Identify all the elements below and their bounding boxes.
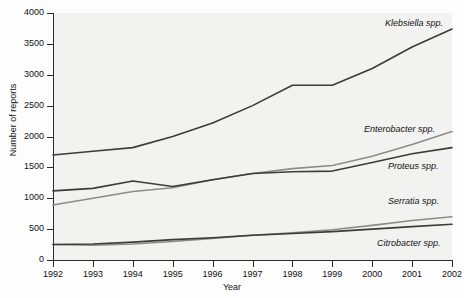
chart-figure: 05001000150020002500300035004000 1992199… — [0, 0, 464, 298]
x-tick-label: 1993 — [75, 269, 111, 279]
y-tick-mark — [47, 106, 53, 107]
x-axis-title: Year — [0, 282, 464, 292]
y-tick-label: 2500 — [24, 101, 44, 110]
y-tick-mark — [47, 44, 53, 45]
x-tick-mark — [213, 261, 214, 267]
y-tick-label: 1500 — [24, 162, 44, 171]
x-tick-label: 1994 — [115, 269, 151, 279]
x-tick-mark — [332, 261, 333, 267]
y-tick-label: 3500 — [24, 39, 44, 48]
x-tick-label: 1995 — [155, 269, 191, 279]
x-tick-mark — [93, 261, 94, 267]
series-label: Serratia spp. — [388, 196, 439, 206]
x-tick-label: 2002 — [434, 269, 464, 279]
series-label: Citrobacter spp. — [377, 238, 441, 248]
series-label: Proteus spp. — [388, 161, 439, 171]
x-tick-mark — [173, 261, 174, 267]
y-tick-label: 0 — [39, 255, 44, 264]
x-tick-mark — [253, 261, 254, 267]
y-axis-title: Number of reports — [8, 60, 18, 180]
y-tick-mark — [47, 229, 53, 230]
y-tick-mark — [47, 75, 53, 76]
plot-area — [53, 13, 452, 261]
x-tick-mark — [53, 261, 54, 267]
x-tick-label: 1998 — [274, 269, 310, 279]
x-tick-mark — [452, 261, 453, 267]
x-tick-mark — [133, 261, 134, 267]
y-tick-mark — [47, 198, 53, 199]
x-tick-mark — [372, 261, 373, 267]
y-tick-mark — [47, 167, 53, 168]
y-tick-mark — [47, 13, 53, 14]
x-tick-label: 1992 — [35, 269, 71, 279]
y-tick-label: 2000 — [24, 132, 44, 141]
x-tick-label: 2001 — [394, 269, 430, 279]
y-tick-label: 3000 — [24, 70, 44, 79]
x-tick-mark — [292, 261, 293, 267]
series-label: Enterobacter spp. — [364, 124, 435, 134]
y-tick-mark — [47, 137, 53, 138]
series-label: Klebsiella spp. — [385, 18, 443, 28]
y-tick-label: 1000 — [24, 193, 44, 202]
y-tick-label: 500 — [29, 224, 44, 233]
x-tick-label: 1999 — [314, 269, 350, 279]
y-tick-label: 4000 — [24, 8, 44, 17]
x-tick-mark — [412, 261, 413, 267]
y-axis-line — [53, 13, 54, 261]
x-tick-label: 1997 — [235, 269, 271, 279]
x-tick-label: 2000 — [354, 269, 390, 279]
x-tick-label: 1996 — [195, 269, 231, 279]
